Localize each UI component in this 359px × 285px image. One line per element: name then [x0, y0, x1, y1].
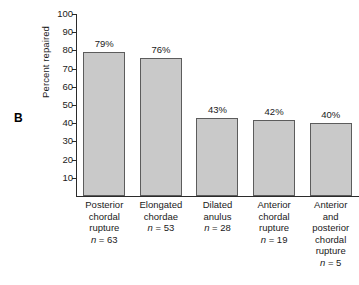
x-category-line: anulus: [189, 211, 246, 223]
y-axis-title-text: Percent repaired: [39, 2, 53, 122]
x-category-count: n = 63: [76, 234, 133, 246]
bar[interactable]: [196, 118, 238, 196]
bar[interactable]: [140, 58, 182, 196]
x-category-line: Dilated: [189, 199, 246, 211]
bar-value-label: 79%: [95, 38, 114, 49]
x-category-count: n = 53: [133, 222, 190, 234]
x-category-line: chordal: [246, 211, 303, 223]
x-category-count: n = 19: [246, 234, 303, 246]
panel-label-b: B: [14, 112, 23, 124]
bar-slot: 76%: [133, 14, 190, 196]
x-category-line: rupture: [302, 245, 359, 257]
x-axis-category-labels: Posteriorchordalrupturen = 63Elongatedch…: [76, 199, 359, 285]
x-category-count: n = 28: [189, 222, 246, 234]
x-category-label: Elongatedchordaen = 53: [133, 199, 190, 234]
bar-chart-figure: B Percent repaired 102030405060708090100…: [0, 0, 359, 285]
bar[interactable]: [253, 120, 295, 196]
x-category-line: chordal: [76, 211, 133, 223]
y-tick-label: 50: [62, 99, 73, 110]
x-axis-line: [76, 196, 359, 197]
bar-slot: 79%: [76, 14, 133, 196]
x-category-line: chordal: [302, 234, 359, 246]
bar-value-label: 43%: [208, 104, 227, 115]
y-axis-title: Percent repaired: [39, 2, 53, 122]
plot-area: 102030405060708090100 79%76%43%42%40%: [76, 14, 359, 196]
bar-value-label: 40%: [321, 109, 340, 120]
x-category-line: Anterior: [302, 199, 359, 211]
x-category-line: Posterior: [76, 199, 133, 211]
x-category-label: Anteriorchordalrupturen = 19: [246, 199, 303, 245]
x-category-line: rupture: [76, 222, 133, 234]
bar[interactable]: [83, 52, 125, 196]
x-category-line: chordae: [133, 211, 190, 223]
x-category-line: rupture: [246, 222, 303, 234]
x-category-label: Anteriorandposteriorchordalrupturen = 5: [302, 199, 359, 269]
x-category-line: Elongated: [133, 199, 190, 211]
y-tick-label: 100: [57, 8, 73, 19]
bar[interactable]: [310, 123, 352, 196]
x-category-line: Anterior: [246, 199, 303, 211]
bar-value-label: 76%: [151, 44, 170, 55]
y-tick-label: 80: [62, 44, 73, 55]
x-category-label: Dilatedanulusn = 28: [189, 199, 246, 234]
y-tick-label: 20: [62, 154, 73, 165]
x-category-label: Posteriorchordalrupturen = 63: [76, 199, 133, 245]
x-category-count: n = 5: [302, 257, 359, 269]
bar-slot: 42%: [246, 14, 303, 196]
y-tick-label: 60: [62, 81, 73, 92]
x-category-line: and: [302, 211, 359, 223]
bar-slot: 40%: [302, 14, 359, 196]
y-tick-label: 70: [62, 63, 73, 74]
x-category-line: posterior: [302, 222, 359, 234]
y-tick-label: 90: [62, 26, 73, 37]
y-tick-label: 10: [62, 172, 73, 183]
y-tick-label: 40: [62, 117, 73, 128]
y-tick-label: 30: [62, 135, 73, 146]
bar-value-label: 42%: [265, 106, 284, 117]
bar-slot: 43%: [189, 14, 246, 196]
